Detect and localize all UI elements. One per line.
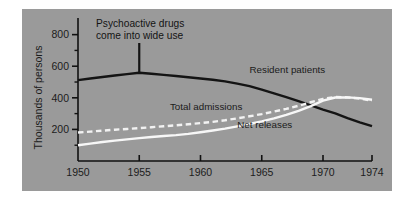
x-tick-label: 1970	[311, 166, 335, 178]
y-axis-title: Thousands of persons	[32, 46, 44, 150]
series-label: Resident patients	[250, 64, 326, 75]
series-label-group: Resident patientsTotal admissionsNet rel…	[170, 64, 325, 130]
y-tick-labels: 200400600800	[51, 28, 69, 135]
y-tick-label: 600	[51, 60, 69, 72]
y-tick-label: 200	[51, 123, 69, 135]
annotation-line-2: come into wide use	[96, 30, 184, 41]
x-axis	[78, 155, 372, 161]
annotation-line-1: Psychoactive drugs	[96, 18, 184, 29]
chart-canvas: 200400600800 195019551960196519701974 Ps…	[0, 0, 409, 202]
x-tick-label: 1974	[360, 166, 384, 178]
y-tick-label: 800	[51, 28, 69, 40]
y-axis-title-group: Thousands of persons	[32, 46, 44, 150]
series-label: Total admissions	[170, 101, 243, 112]
x-tick-label: 1955	[128, 166, 152, 178]
y-tick-label: 400	[51, 92, 69, 104]
x-tick-label: 1950	[66, 166, 90, 178]
x-tick-label: 1960	[189, 166, 213, 178]
series-label: Net releases	[237, 119, 292, 130]
chart-figure: 200400600800 195019551960196519701974 Ps…	[0, 0, 409, 202]
x-tick-label: 1965	[250, 166, 274, 178]
x-tick-labels: 195019551960196519701974	[66, 166, 384, 178]
y-axis	[72, 18, 78, 161]
annotation-group: Psychoactive drugscome into wide use	[96, 18, 184, 73]
